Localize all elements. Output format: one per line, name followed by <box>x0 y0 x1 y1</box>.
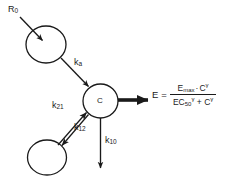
equation-equals-sign: = <box>161 89 167 100</box>
depot-compartment-circle <box>26 26 66 63</box>
equation-numerator: Emax·Cγ <box>175 82 212 94</box>
k21-label: k21 <box>52 101 64 111</box>
equation-denominator: EC50γ + Cγ <box>170 95 216 107</box>
k12-label: k12 <box>74 123 86 133</box>
diagram-canvas: R0 ka k21 k12 k10 C E = Emax·Cγ EC50γ + … <box>0 0 235 187</box>
k10-label: k10 <box>105 136 117 146</box>
ka-label: ka <box>74 58 82 68</box>
emax-equation: E = Emax·Cγ EC50γ + Cγ <box>152 82 216 107</box>
equation-lhs: E <box>152 89 158 100</box>
equation-fraction: Emax·Cγ EC50γ + Cγ <box>170 82 216 107</box>
central-compartment-label: C <box>97 97 103 105</box>
peripheral-compartment-circle <box>28 140 67 175</box>
dose-input-label: R0 <box>8 5 18 15</box>
